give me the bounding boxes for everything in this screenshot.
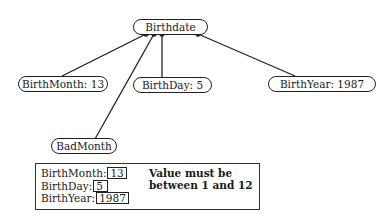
- field-label: BirthDay:: [41, 180, 92, 192]
- node-birthmonth: BirthMonth: 13: [18, 76, 108, 92]
- birthmonth-input[interactable]: 13: [107, 167, 126, 179]
- node-badmonth: BadMonth: [51, 138, 117, 154]
- birthdate-form: BirthMonth: 13 BirthDay: 5 BirthYear: 19…: [35, 163, 260, 210]
- birthyear-input[interactable]: 1987: [96, 192, 129, 204]
- field-label: BirthMonth:: [41, 167, 106, 179]
- node-birthday: BirthDay: 5: [133, 77, 212, 93]
- error-message: Value must be between 1 and 12: [149, 167, 259, 191]
- birthday-input[interactable]: 5: [93, 180, 108, 192]
- field-label: BirthYear:: [41, 192, 95, 204]
- node-birthyear: BirthYear: 1987: [268, 76, 376, 92]
- form-row-year: BirthYear: 1987: [41, 192, 259, 205]
- node-birthdate: Birthdate: [133, 19, 208, 35]
